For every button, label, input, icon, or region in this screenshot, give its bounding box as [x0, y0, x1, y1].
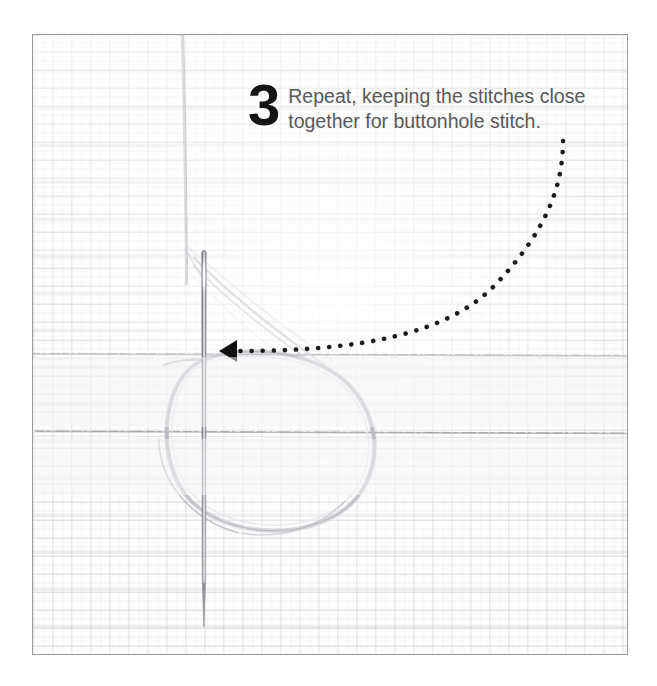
- image-alt-text: Needle pushed through white aida fabric …: [0, 0, 1, 1]
- step-number: 3: [248, 79, 279, 131]
- caption-line-1: Repeat, keeping the stitches close: [288, 84, 585, 109]
- caption-text: Repeat, keeping the stitches close toget…: [288, 77, 585, 134]
- caption-block: 3 Repeat, keeping the stitches close tog…: [248, 77, 608, 134]
- screenshot-root: 3 Repeat, keeping the stitches close tog…: [0, 0, 657, 686]
- caption-line-2: together for buttonhole stitch.: [288, 109, 585, 134]
- photo-frame: 3 Repeat, keeping the stitches close tog…: [32, 34, 628, 655]
